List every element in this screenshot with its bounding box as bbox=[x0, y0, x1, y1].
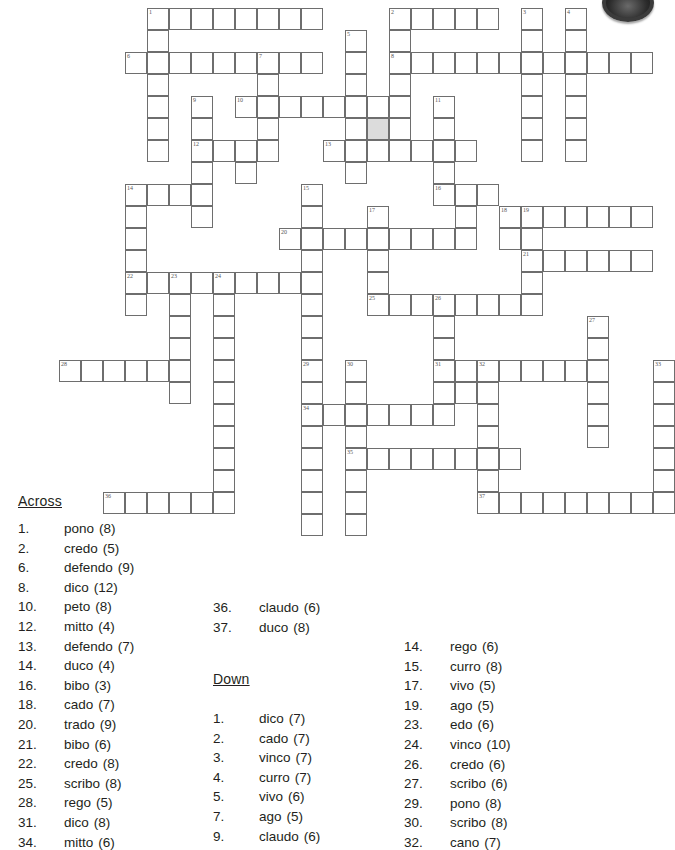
grid-cell[interactable] bbox=[257, 96, 279, 118]
grid-cell[interactable] bbox=[169, 52, 191, 74]
grid-cell[interactable] bbox=[455, 206, 477, 228]
grid-cell[interactable] bbox=[345, 140, 367, 162]
grid-cell[interactable] bbox=[191, 118, 213, 140]
grid-cell[interactable] bbox=[433, 52, 455, 74]
grid-cell[interactable] bbox=[521, 140, 543, 162]
grid-cell[interactable] bbox=[543, 250, 565, 272]
grid-cell[interactable] bbox=[301, 448, 323, 470]
grid-cell[interactable] bbox=[345, 162, 367, 184]
grid-cell[interactable] bbox=[367, 96, 389, 118]
grid-cell-numbered-7[interactable]: 7 bbox=[257, 52, 279, 74]
grid-cell-numbered-11[interactable]: 11 bbox=[433, 96, 455, 118]
grid-cell[interactable] bbox=[477, 448, 499, 470]
grid-cell[interactable] bbox=[213, 448, 235, 470]
grid-cell-numbered-19[interactable]: 19 bbox=[521, 206, 543, 228]
grid-cell-numbered-30[interactable]: 30 bbox=[345, 360, 367, 382]
grid-cell[interactable] bbox=[565, 360, 587, 382]
grid-cell-numbered-13[interactable]: 13 bbox=[323, 140, 345, 162]
grid-cell-numbered-9[interactable]: 9 bbox=[191, 96, 213, 118]
grid-cell[interactable] bbox=[477, 404, 499, 426]
grid-cell-numbered-10[interactable]: 10 bbox=[235, 96, 257, 118]
grid-cell-numbered-18[interactable]: 18 bbox=[499, 206, 521, 228]
grid-cell[interactable] bbox=[125, 250, 147, 272]
grid-cell-numbered-26[interactable]: 26 bbox=[433, 294, 455, 316]
grid-cell[interactable] bbox=[477, 52, 499, 74]
grid-cell[interactable] bbox=[213, 294, 235, 316]
grid-cell[interactable] bbox=[345, 228, 367, 250]
grid-cell[interactable] bbox=[455, 360, 477, 382]
grid-cell[interactable] bbox=[521, 96, 543, 118]
grid-cell[interactable] bbox=[587, 360, 609, 382]
grid-cell[interactable] bbox=[301, 338, 323, 360]
grid-cell[interactable] bbox=[345, 74, 367, 96]
grid-cell[interactable] bbox=[367, 228, 389, 250]
grid-cell[interactable] bbox=[323, 404, 345, 426]
grid-cell[interactable] bbox=[147, 30, 169, 52]
grid-cell-numbered-23[interactable]: 23 bbox=[169, 272, 191, 294]
grid-cell-numbered-21[interactable]: 21 bbox=[521, 250, 543, 272]
grid-cell[interactable] bbox=[521, 360, 543, 382]
grid-cell[interactable] bbox=[235, 8, 257, 30]
grid-cell[interactable] bbox=[521, 52, 543, 74]
grid-cell[interactable] bbox=[521, 74, 543, 96]
grid-cell-numbered-3[interactable]: 3 bbox=[521, 8, 543, 30]
grid-cell[interactable] bbox=[213, 316, 235, 338]
grid-cell[interactable] bbox=[455, 8, 477, 30]
grid-cell[interactable] bbox=[653, 426, 675, 448]
grid-cell-numbered-28[interactable]: 28 bbox=[59, 360, 81, 382]
grid-cell[interactable] bbox=[477, 8, 499, 30]
grid-cell-numbered-2[interactable]: 2 bbox=[389, 8, 411, 30]
grid-cell[interactable] bbox=[543, 206, 565, 228]
grid-cell[interactable] bbox=[367, 118, 389, 140]
grid-cell[interactable] bbox=[81, 360, 103, 382]
grid-cell[interactable] bbox=[301, 316, 323, 338]
grid-cell[interactable] bbox=[235, 52, 257, 74]
grid-cell[interactable] bbox=[367, 140, 389, 162]
grid-cell[interactable] bbox=[587, 382, 609, 404]
grid-cell[interactable] bbox=[477, 382, 499, 404]
grid-cell[interactable] bbox=[301, 206, 323, 228]
grid-cell[interactable] bbox=[169, 382, 191, 404]
grid-cell[interactable] bbox=[125, 228, 147, 250]
grid-cell[interactable] bbox=[169, 338, 191, 360]
grid-cell[interactable] bbox=[631, 52, 653, 74]
grid-cell[interactable] bbox=[433, 316, 455, 338]
grid-cell-numbered-16[interactable]: 16 bbox=[433, 184, 455, 206]
grid-cell[interactable] bbox=[169, 360, 191, 382]
grid-cell[interactable] bbox=[125, 294, 147, 316]
grid-cell[interactable] bbox=[411, 448, 433, 470]
grid-cell-numbered-27[interactable]: 27 bbox=[587, 316, 609, 338]
grid-cell[interactable] bbox=[389, 30, 411, 52]
grid-cell[interactable] bbox=[345, 52, 367, 74]
grid-cell[interactable] bbox=[433, 118, 455, 140]
grid-cell[interactable] bbox=[499, 228, 521, 250]
grid-cell[interactable] bbox=[103, 360, 125, 382]
grid-cell[interactable] bbox=[609, 250, 631, 272]
grid-cell-numbered-8[interactable]: 8 bbox=[389, 52, 411, 74]
grid-cell[interactable] bbox=[257, 8, 279, 30]
grid-cell[interactable] bbox=[455, 448, 477, 470]
grid-cell[interactable] bbox=[235, 162, 257, 184]
grid-cell[interactable] bbox=[565, 30, 587, 52]
grid-cell[interactable] bbox=[301, 272, 323, 294]
grid-cell[interactable] bbox=[411, 52, 433, 74]
grid-cell[interactable] bbox=[565, 206, 587, 228]
grid-cell[interactable] bbox=[235, 272, 257, 294]
grid-cell-numbered-14[interactable]: 14 bbox=[125, 184, 147, 206]
grid-cell[interactable] bbox=[345, 96, 367, 118]
grid-cell[interactable] bbox=[345, 426, 367, 448]
grid-cell[interactable] bbox=[389, 294, 411, 316]
grid-cell[interactable] bbox=[521, 118, 543, 140]
grid-cell[interactable] bbox=[587, 52, 609, 74]
grid-cell[interactable] bbox=[213, 140, 235, 162]
grid-cell[interactable] bbox=[367, 250, 389, 272]
grid-cell[interactable] bbox=[257, 272, 279, 294]
grid-cell[interactable] bbox=[455, 382, 477, 404]
grid-cell[interactable] bbox=[587, 404, 609, 426]
grid-cell-numbered-24[interactable]: 24 bbox=[213, 272, 235, 294]
grid-cell[interactable] bbox=[345, 404, 367, 426]
grid-cell[interactable] bbox=[191, 206, 213, 228]
grid-cell[interactable] bbox=[565, 74, 587, 96]
grid-cell[interactable] bbox=[389, 96, 411, 118]
grid-cell[interactable] bbox=[147, 74, 169, 96]
